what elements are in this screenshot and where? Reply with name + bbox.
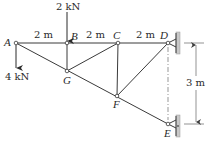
- node-label-g: G: [63, 74, 71, 86]
- pin-b: [65, 41, 69, 45]
- load-label-a: 4 kN: [5, 71, 30, 82]
- span-label-ab: 2 m: [34, 29, 54, 40]
- pin-e: [166, 122, 170, 126]
- node-label-e: E: [163, 127, 171, 139]
- node-label-d: D: [159, 29, 168, 41]
- truss-diagram: A B C D G F E 2 kN 4 kN 2 m 2 m 2 m 3 m: [0, 0, 210, 142]
- member-fd: [117, 43, 168, 96]
- member-gc: [67, 43, 118, 71]
- pin-d: [166, 41, 170, 45]
- member-bottom-chord: [16, 43, 168, 124]
- span-label-cd: 2 m: [136, 29, 156, 40]
- dimension-label-de: 3 m: [186, 77, 206, 88]
- truss-members: [16, 43, 168, 124]
- pin-c: [116, 41, 120, 45]
- member-cf: [117, 43, 118, 96]
- node-label-c: C: [113, 29, 121, 41]
- node-label-f: F: [112, 98, 120, 110]
- node-label-a: A: [3, 36, 11, 48]
- load-label-b: 2 kN: [56, 1, 81, 12]
- truss-svg: A B C D G F E 2 kN 4 kN 2 m 2 m 2 m 3 m: [0, 0, 210, 142]
- pin-g: [65, 69, 69, 73]
- pin-a: [14, 41, 18, 45]
- wall-d: [176, 32, 180, 54]
- span-label-bc: 2 m: [86, 29, 106, 40]
- node-label-b: B: [71, 30, 78, 42]
